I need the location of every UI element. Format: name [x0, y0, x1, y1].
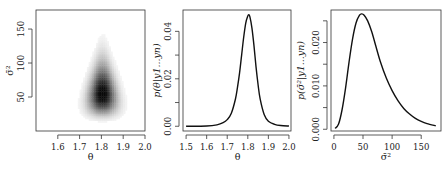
x-tick-label: 1.8 [95, 142, 109, 152]
x-tick-label: 1.6 [51, 142, 65, 152]
x-tick-label: 2.0 [138, 142, 152, 152]
y-axis-label: σ̄² [4, 65, 15, 75]
y-tick-label: 0.00 [163, 117, 173, 136]
y-axis-label: p(σ̄²|y1...yn) [295, 41, 307, 100]
x-axis-label: σ̄² [381, 151, 391, 162]
y-axis-label: p(θ|y1...yn) [151, 43, 163, 98]
plot-frame [183, 10, 291, 131]
x-tick-label: 1.9 [262, 142, 276, 152]
sigma2-density-curve [335, 14, 436, 129]
density-cell [112, 57, 114, 59]
density-cell [120, 76, 122, 78]
y-tick-label: 150 [16, 21, 26, 37]
x-tick-label: 0 [331, 142, 336, 152]
y-tick-label: 0.010 [311, 74, 321, 98]
density-cell [109, 46, 111, 48]
sigma2-posterior-panel: 050100150 0.0000.0100.020 σ̄² p(σ̄²|y1..… [295, 10, 441, 162]
density-cell [110, 51, 112, 53]
density-cell [123, 88, 125, 90]
y-tick-label: 100 [16, 55, 26, 71]
x-tick-label: 1.8 [241, 142, 255, 152]
density-cell [118, 71, 120, 73]
x-axis-label: θ [235, 151, 241, 162]
density-cell [121, 81, 123, 83]
density-cell [116, 65, 118, 67]
density-cell [103, 34, 105, 36]
y-tick-label: 0.02 [163, 69, 173, 88]
x-tick-label: 1.5 [179, 142, 193, 152]
x-tick-label: 1.6 [200, 142, 214, 152]
y-tick-label: 0.04 [163, 22, 173, 41]
x-tick-label: 1.7 [220, 142, 234, 152]
y-tick-label: 0.020 [311, 30, 321, 54]
density-cell [125, 95, 127, 97]
y-tick-label: 0.000 [311, 117, 321, 141]
x-tick-label: 1.7 [73, 142, 87, 152]
joint-density-heatmap [78, 34, 127, 123]
x-tick-label: 1.9 [116, 142, 130, 152]
x-tick-label: 150 [413, 142, 429, 152]
theta-density-curve [186, 15, 289, 127]
x-axis-label: θ [88, 151, 94, 162]
figure: 1.61.71.81.92.0 50100150 θ σ̄² 1.51.61.7… [0, 0, 448, 174]
density-cell [107, 41, 109, 43]
density-cell [114, 60, 116, 62]
density-cell [105, 38, 107, 40]
theta-posterior-panel: 1.51.61.71.81.92.0 0.000.020.04 θ p(θ|y1… [151, 10, 296, 162]
joint-density-panel: 1.61.71.81.92.0 50100150 θ σ̄² [4, 10, 152, 162]
y-tick-label: 50 [16, 92, 26, 103]
x-tick-label: 50 [358, 142, 369, 152]
x-tick-label: 2.0 [282, 142, 296, 152]
